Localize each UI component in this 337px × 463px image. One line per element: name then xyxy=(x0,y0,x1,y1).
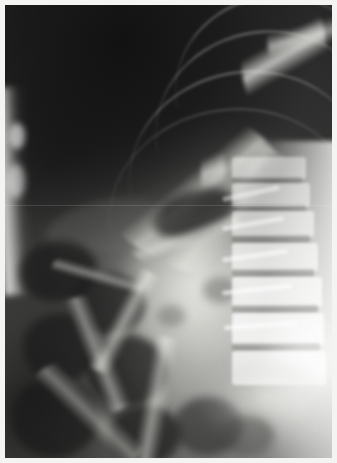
radiograph-image[interactable]: Plain abdominal radiograph showing dilat… xyxy=(5,5,332,458)
radiograph-viewer[interactable]: Plain abdominal radiograph showing dilat… xyxy=(0,0,337,463)
scan-seam xyxy=(5,205,332,206)
image-caption: Plain abdominal radiograph showing dilat… xyxy=(5,5,6,6)
sacral-foramina xyxy=(220,416,274,456)
